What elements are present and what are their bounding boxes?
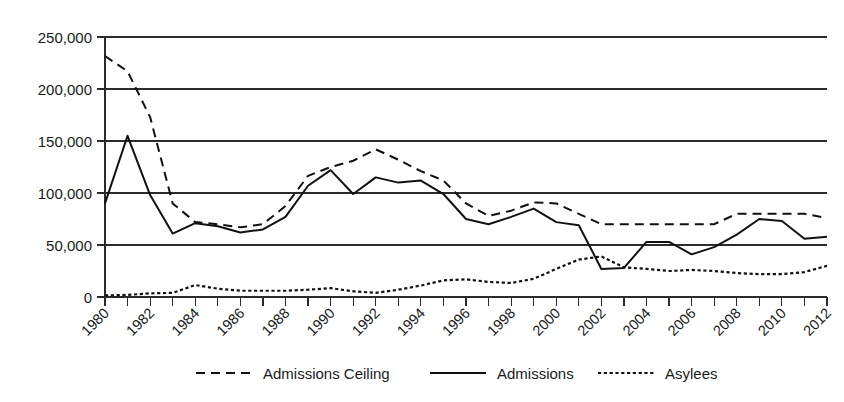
y-axis-tick-labels: 050,000100,000150,000200,000250,000 — [38, 29, 105, 306]
legend-label-admissions: Admissions — [497, 365, 574, 382]
y-axis-tick-label: 100,000 — [38, 185, 92, 202]
x-axis-tick-label: 1982 — [123, 305, 157, 339]
x-axis-tick-label: 2006 — [665, 305, 699, 339]
x-axis-tick-label: 1996 — [439, 305, 473, 339]
x-axis-tick-label: 2010 — [755, 305, 789, 339]
axes — [105, 37, 827, 297]
y-axis-tick-label: 150,000 — [38, 133, 92, 150]
y-axis-tick-label: 0 — [84, 289, 92, 306]
x-axis-tick-label: 1994 — [394, 305, 428, 339]
x-axis-tick-label: 2008 — [710, 305, 744, 339]
legend-label-asylees: Asylees — [665, 365, 718, 382]
y-axis-tick-label: 250,000 — [38, 29, 92, 46]
series-line-asylees — [105, 256, 827, 295]
x-axis-tickmarks — [105, 297, 827, 306]
x-axis-tick-label: 1986 — [213, 305, 247, 339]
x-axis-tick-label: 1992 — [349, 305, 383, 339]
y-axis-tick-label: 200,000 — [38, 81, 92, 98]
x-axis-tick-label: 1990 — [304, 305, 338, 339]
chart-figure: 050,000100,000150,000200,000250,000 1980… — [0, 0, 844, 402]
legend-label-admissions-ceiling: Admissions Ceiling — [263, 365, 390, 382]
x-axis-tick-labels: 1980198219841986198819901992199419961998… — [78, 305, 834, 339]
x-axis-tick-label: 2012 — [800, 305, 834, 339]
chart-legend: Admissions CeilingAdmissionsAsylees — [196, 365, 718, 382]
x-axis-tick-label: 1988 — [258, 305, 292, 339]
gridlines — [105, 37, 827, 297]
x-axis-tick-label: 2002 — [574, 305, 608, 339]
x-axis-tick-label: 1980 — [78, 305, 112, 339]
line-chart: 050,000100,000150,000200,000250,000 1980… — [0, 0, 844, 402]
y-axis-tick-label: 50,000 — [46, 237, 92, 254]
series-line-admissions-ceiling — [105, 56, 827, 227]
x-axis-tick-label: 2000 — [529, 305, 563, 339]
x-axis-tick-label: 1998 — [484, 305, 518, 339]
x-axis-tick-label: 1984 — [168, 305, 202, 339]
data-series-group — [105, 56, 827, 295]
x-axis-tick-label: 2004 — [619, 305, 653, 339]
